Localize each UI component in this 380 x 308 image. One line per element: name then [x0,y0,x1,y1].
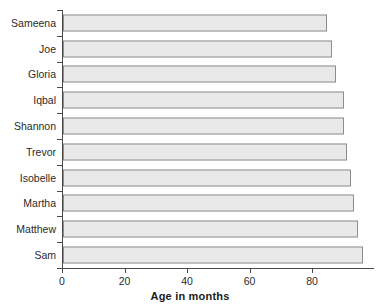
y-axis-label: Gloria [0,68,56,80]
bar-row: Joe [0,36,380,62]
x-axis-tick [62,268,63,273]
y-axis-tick [57,165,62,166]
bar [63,40,332,57]
x-axis-title: Age in months [0,290,380,302]
x-axis-ticks: 020406080 [0,268,380,292]
y-axis-tick [57,216,62,217]
bar [63,169,351,186]
bar-row: Sam [0,242,380,268]
y-axis-label: Joe [0,43,56,55]
bar [63,118,344,135]
y-axis-tick [57,36,62,37]
bar-row: Gloria [0,62,380,88]
y-axis-tick [57,10,62,11]
y-axis-label: Shannon [0,120,56,132]
bar-row: Martha [0,191,380,217]
x-axis-tick-label: 0 [59,275,65,287]
bar [63,143,347,160]
bar-row: Iqbal [0,87,380,113]
y-axis-label: Trevor [0,146,56,158]
x-axis-tick [312,268,313,273]
x-axis-tick-label: 20 [119,275,131,287]
bar-rows: SameenaJoeGloriaIqbalShannonTrevorIsobel… [0,10,380,268]
y-axis-tick [57,191,62,192]
x-axis-tick-label: 80 [306,275,318,287]
y-axis-label: Sam [0,249,56,261]
x-axis-tick [250,268,251,273]
bar-row: Trevor [0,139,380,165]
y-axis-label: Sameena [0,17,56,29]
bar [63,66,336,83]
bar [63,221,358,238]
x-axis-tick [187,268,188,273]
x-axis-tick [125,268,126,273]
bar [63,247,363,264]
y-axis-tick [57,62,62,63]
y-axis-tick [57,139,62,140]
y-axis-label: Martha [0,197,56,209]
bar-row: Matthew [0,216,380,242]
bar [63,195,354,212]
bar-chart: SameenaJoeGloriaIqbalShannonTrevorIsobel… [0,0,380,308]
bar-row: Sameena [0,10,380,36]
bar-row: Isobelle [0,165,380,191]
bar [63,92,344,109]
y-axis-label: Matthew [0,223,56,235]
x-axis-tick-label: 40 [181,275,193,287]
y-axis-tick [57,87,62,88]
y-axis-tick [57,113,62,114]
x-axis-tick-label: 60 [244,275,256,287]
y-axis-label: Isobelle [0,172,56,184]
y-axis-tick [57,242,62,243]
bar [63,14,327,31]
bar-row: Shannon [0,113,380,139]
y-axis-label: Iqbal [0,94,56,106]
